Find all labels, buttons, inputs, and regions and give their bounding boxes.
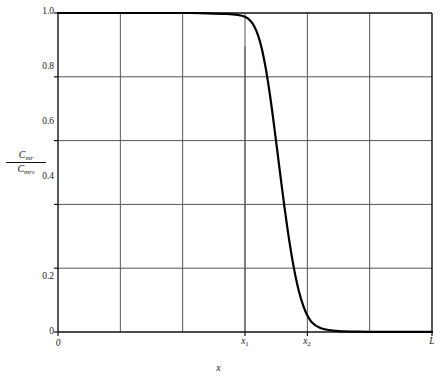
- plot-canvas: [0, 0, 445, 382]
- x-tick-label-L: L: [422, 336, 442, 346]
- y-axis-label-numerator: Cmr: [6, 150, 46, 163]
- x-tick-label-0: 0: [48, 338, 68, 348]
- y-tick-label-3: 0.6: [28, 116, 54, 126]
- x-tick-label-x2: x2: [295, 336, 319, 348]
- y-tick-label-2: 0.8: [28, 61, 54, 71]
- y-tick-label-1: 1.0: [28, 6, 54, 16]
- y-tick-label-5: 0.2: [28, 271, 54, 281]
- chart-figure: Cmr Cmro 1.0 0.8 0.6 0.4 0.2 0 0 x1 x2 L…: [0, 0, 445, 382]
- x-tick-label-x1: x1: [233, 336, 257, 348]
- y-tick-label-6: 0: [28, 326, 54, 336]
- axis-ticks: [54, 13, 432, 336]
- y-tick-label-4: 0.4: [28, 171, 54, 181]
- x-axis-title: x: [0, 362, 445, 373]
